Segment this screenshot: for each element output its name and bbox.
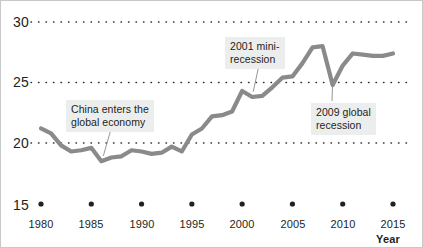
x-tick-label-2000: 2000 xyxy=(222,218,262,230)
x-tick-label-2010: 2010 xyxy=(323,218,363,230)
y-tick-label-30: 30 xyxy=(3,14,29,30)
x-tick-label-2015: 2015 xyxy=(373,218,413,230)
x-axis-title: Year xyxy=(376,233,400,245)
x-axis-tick-dots xyxy=(38,201,395,206)
y-tick-label-25: 25 xyxy=(3,74,29,90)
recession-2009-annotation: 2009 global recession xyxy=(311,103,376,135)
x-tick-label-1990: 1990 xyxy=(122,218,162,230)
x-tick-label-2005: 2005 xyxy=(273,218,313,230)
y-tick-label-20: 20 xyxy=(3,135,29,151)
x-tick-label-1980: 1980 xyxy=(21,218,61,230)
x-tick-label-1995: 1995 xyxy=(172,218,212,230)
x-tick-label-1985: 1985 xyxy=(71,218,111,230)
chart-figure: 30 25 20 15 1980 1985 1990 1995 2000 200… xyxy=(0,0,423,248)
china-annotation: China enters the global economy xyxy=(66,100,154,132)
recession-2001-annotation: 2001 mini- recession xyxy=(225,37,285,69)
y-tick-label-15: 15 xyxy=(3,197,29,213)
